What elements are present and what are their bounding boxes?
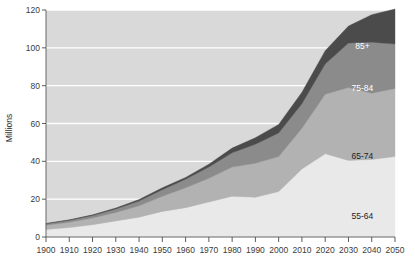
x-tick-label: 2030	[339, 245, 358, 255]
y-tick-label: 20	[31, 194, 41, 204]
x-tick-label: 1930	[106, 245, 125, 255]
x-tick-label: 2050	[386, 245, 405, 255]
y-tick-label: 60	[31, 119, 41, 129]
y-tick-label: 40	[31, 156, 41, 166]
series-label-85+: 85+	[355, 41, 369, 51]
series-label-55-64: 55-64	[352, 211, 374, 221]
x-axis-tick-labels-group: 1900191019201930194019501960197019801990…	[37, 245, 405, 255]
x-tick-label: 1910	[60, 245, 79, 255]
series-label-75-84: 75-84	[352, 83, 374, 93]
x-tick-label: 1940	[130, 245, 149, 255]
x-tick-label: 1980	[223, 245, 242, 255]
x-tick-label: 1950	[153, 245, 172, 255]
y-tick-label: 100	[26, 43, 40, 53]
y-tick-label: 80	[31, 81, 41, 91]
chart-canvas: 020406080100120 190019101920193019401950…	[0, 0, 415, 264]
y-axis-tick-labels-group: 020406080100120	[26, 5, 40, 242]
x-tick-label: 2020	[316, 245, 335, 255]
y-axis-title: Millions	[4, 114, 14, 142]
x-tick-label: 1990	[246, 245, 265, 255]
x-tick-label: 1900	[37, 245, 56, 255]
x-tick-label: 1960	[176, 245, 195, 255]
y-axis-title-group: Millions	[4, 114, 14, 142]
population-projection-area-chart: 020406080100120 190019101920193019401950…	[0, 0, 415, 264]
x-tick-label: 2000	[269, 245, 288, 255]
y-tick-label: 0	[35, 232, 40, 242]
x-tick-label: 1920	[83, 245, 102, 255]
series-label-65-74: 65-74	[352, 151, 374, 161]
y-tick-label: 120	[26, 5, 40, 15]
x-tick-label: 1970	[199, 245, 218, 255]
x-tick-label: 2040	[362, 245, 381, 255]
x-tick-label: 2010	[292, 245, 311, 255]
